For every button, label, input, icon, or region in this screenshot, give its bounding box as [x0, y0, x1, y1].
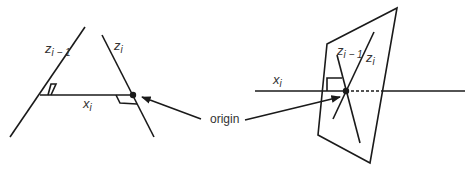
x-label-left: xi: [82, 96, 93, 113]
x-label-right: xi: [272, 72, 283, 89]
origin-dot-left: [130, 92, 136, 98]
z-label-left: zi: [113, 38, 124, 55]
z-label-right: zi: [365, 50, 376, 67]
origin-dot-right: [343, 88, 349, 94]
left-figure: [10, 27, 154, 137]
z-axis-left: [102, 35, 154, 137]
origin-label: origin: [210, 112, 239, 126]
origin-arrow-right: [245, 97, 340, 120]
diagram-canvas: zi − 1 zi xi origin zi − 1 zi xi: [0, 0, 470, 173]
origin-arrow-left: [142, 97, 201, 119]
right-figure: [255, 8, 465, 163]
plane: [318, 8, 397, 163]
right-angle-mark-right: [327, 78, 342, 91]
z-prev-label-left: zi − 1: [44, 41, 71, 58]
right-angle-mark-left-1: [48, 84, 56, 95]
z-prev-label-right: zi − 1: [336, 43, 363, 60]
